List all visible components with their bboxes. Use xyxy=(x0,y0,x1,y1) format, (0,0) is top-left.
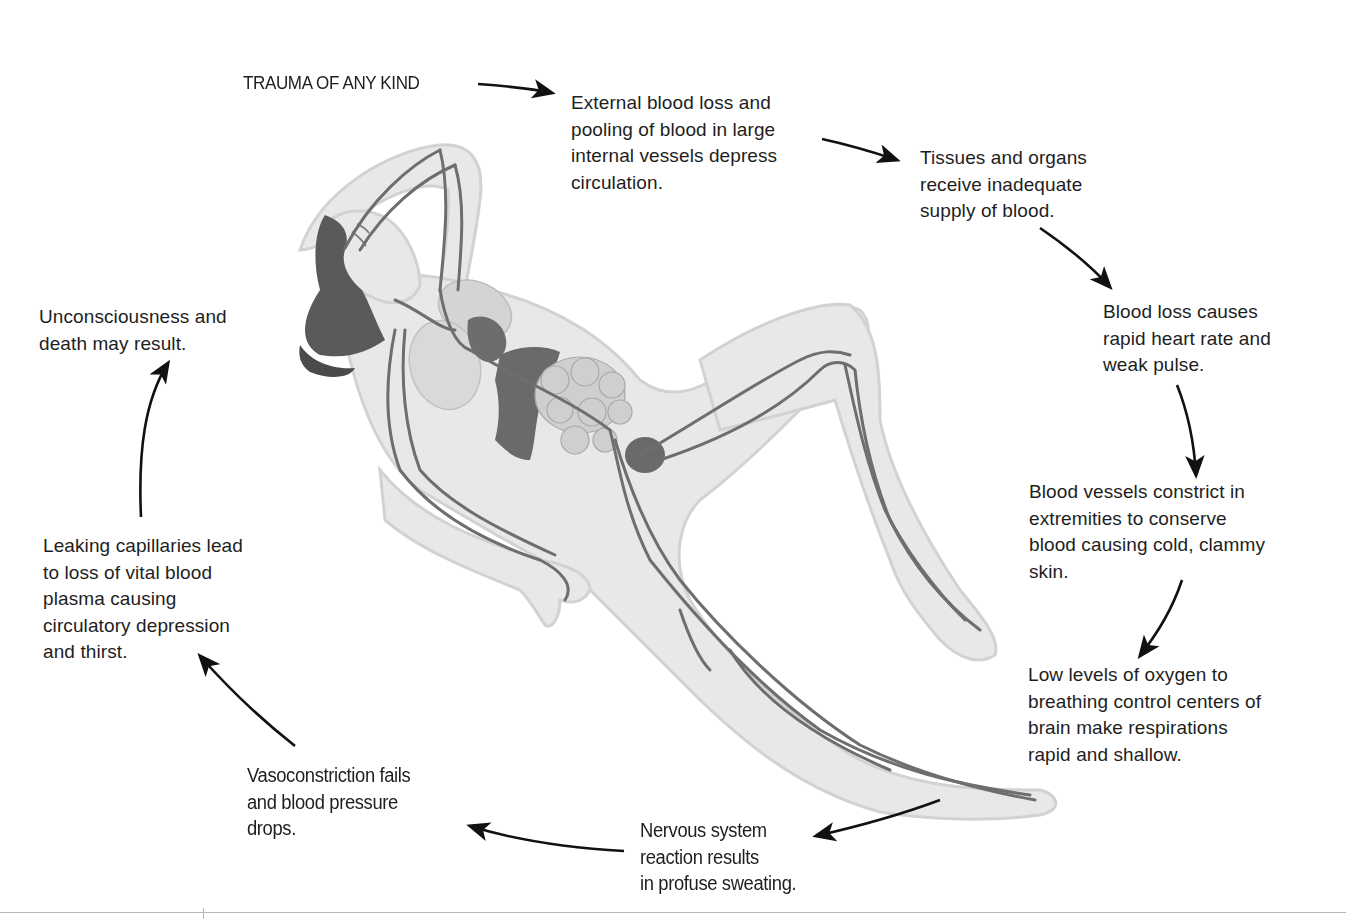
step-6-label: Nervous system reaction results in profu… xyxy=(640,817,796,897)
step-5-label: Low levels of oxygen to breathing contro… xyxy=(1028,662,1261,768)
step-7-label: Vasoconstriction fails and blood pressur… xyxy=(247,762,410,842)
step-2-label: Tissues and organs receive inadequate su… xyxy=(920,145,1087,225)
trauma-start-label: TRAUMA OF ANY KIND xyxy=(243,70,420,97)
step-3-label: Blood loss causes rapid heart rate and w… xyxy=(1103,299,1271,379)
bottom-divider-tick xyxy=(203,908,204,919)
step-4-label: Blood vessels constrict in extremities t… xyxy=(1029,479,1265,585)
bottom-divider xyxy=(0,912,1346,913)
body-silhouette xyxy=(300,145,1056,819)
step-8-label: Leaking capillaries lead to loss of vita… xyxy=(43,533,243,666)
step-1-label: External blood loss and pooling of blood… xyxy=(571,90,777,196)
step-9-label: Unconsciousness and death may result. xyxy=(39,304,227,357)
